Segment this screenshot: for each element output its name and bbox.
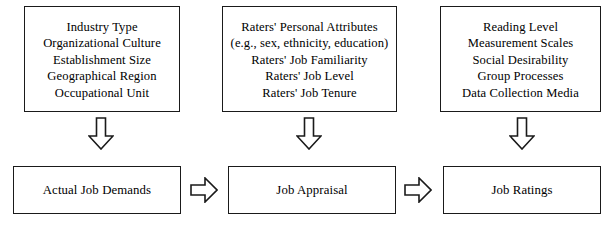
box-line: Industry Type <box>66 19 137 35</box>
rater-attributes-box: Raters' Personal Attributes (e.g., sex, … <box>222 6 397 112</box>
box-line: Establishment Size <box>53 52 151 68</box>
box-line: Raters' Job Level <box>265 68 354 84</box>
box-line: Raters' Job Tenure <box>262 85 357 101</box>
box-line: Raters' Job Familiarity <box>251 52 368 68</box>
right-arrow-icon <box>404 177 432 203</box>
box-line: Group Processes <box>478 68 564 84</box>
box-line: Measurement Scales <box>468 35 574 51</box>
instrument-factors-box: Reading Level Measurement Scales Social … <box>440 6 601 112</box>
down-arrow-icon <box>509 117 535 150</box>
box-line: Raters' Personal Attributes <box>241 19 377 35</box>
box-line: Occupational Unit <box>55 85 149 101</box>
diagram-canvas: Industry Type Organizational Culture Est… <box>0 0 613 225</box>
box-line: Organizational Culture <box>43 35 161 51</box>
box-line: (e.g., sex, ethnicity, education) <box>231 35 389 51</box>
job-ratings-box: Job Ratings <box>443 166 601 214</box>
box-label: Actual Job Demands <box>43 183 151 198</box>
box-label: Job Appraisal <box>276 183 347 198</box>
box-label: Job Ratings <box>491 183 552 198</box>
down-arrow-icon <box>296 117 322 150</box>
job-appraisal-box: Job Appraisal <box>228 166 396 214</box>
right-arrow-icon <box>190 177 218 203</box>
down-arrow-icon <box>88 117 114 150</box>
box-line: Geographical Region <box>47 68 156 84</box>
box-line: Data Collection Media <box>462 85 579 101</box>
environmental-factors-box: Industry Type Organizational Culture Est… <box>24 6 180 112</box>
actual-job-demands-box: Actual Job Demands <box>13 166 181 214</box>
box-line: Social Desirability <box>473 52 569 68</box>
box-line: Reading Level <box>483 19 558 35</box>
